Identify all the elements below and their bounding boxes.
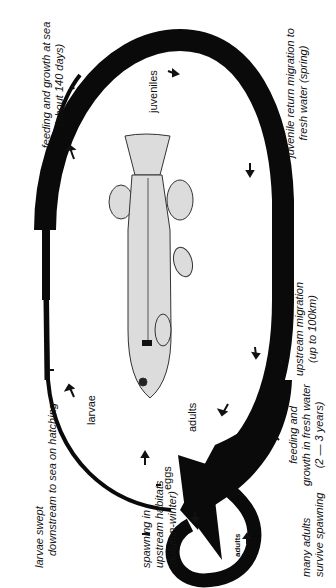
fish-eye [139,378,147,386]
pelvic-fin [170,245,195,279]
adults-curl-label: adults [231,533,244,557]
larvae-label: larvae [85,395,98,425]
survive-spawning-label: many adults survive spawning [300,493,326,577]
larvae-swept-label: larvae swept downstream to sea on hatchi… [33,403,59,568]
tail-fin [125,134,170,175]
fish-illustration [109,134,196,398]
arrow-head [178,455,225,560]
dorsal-fin [155,314,171,346]
juveniles-label: juveniles [147,70,160,113]
upstream-migration-label: upstream migration (up to 100km) [293,274,319,384]
fish-body [128,175,171,398]
gill-mark [142,340,152,346]
adults-label: adults [186,403,199,432]
pectoral-fin-right [167,180,193,220]
freshwater-growth-label: feeding and growth in fresh water (2 — 3… [287,375,326,495]
sea-feeding-label: feeding and growth at sea (about 140 day… [40,10,66,160]
juvenile-return-label: juvenile return migration to fresh water… [284,23,310,163]
spawning-label: spawning in upstream habitats (autumn-wi… [140,481,179,568]
